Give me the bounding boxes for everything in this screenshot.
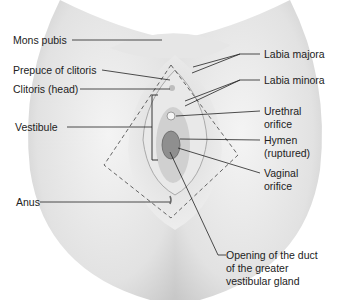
label-vaginal-orifice-line2: orifice <box>264 180 292 193</box>
label-labia-majora: Labia majora <box>264 48 325 61</box>
label-clitoris-head: Clitoris (head) <box>13 83 78 96</box>
label-labia-minora: Labia minora <box>264 74 325 87</box>
label-hymen-line1: Hymen <box>264 134 297 147</box>
label-duct-line2: of the greater <box>226 262 288 275</box>
label-duct-line3: vestibular gland <box>226 275 300 288</box>
label-urethral-orifice-line2: orifice <box>264 118 292 131</box>
clitoris-shape <box>169 85 175 91</box>
label-vestibule: Vestibule <box>15 121 58 134</box>
label-vaginal-orifice-line1: Vaginal <box>264 167 298 180</box>
label-duct-line1: Opening of the duct <box>226 249 318 262</box>
label-hymen-line2: (ruptured) <box>264 147 310 160</box>
label-prepuce-of-clitoris: Prepuce of clitoris <box>13 64 96 77</box>
label-urethral-orifice-line1: Urethral <box>264 105 301 118</box>
anatomy-figure: Mons pubis Prepuce of clitoris Clitoris … <box>0 0 343 305</box>
label-anus: Anus <box>16 196 40 209</box>
urethral-orifice-shape <box>167 112 175 120</box>
label-mons-pubis: Mons pubis <box>13 34 67 47</box>
